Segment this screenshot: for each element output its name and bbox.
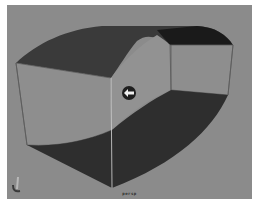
- curved-mesh-object[interactable]: [7, 5, 252, 199]
- move-manipulator[interactable]: [122, 86, 136, 100]
- axis-indicator-icon: [10, 173, 24, 193]
- left-arrow-icon: [124, 89, 134, 97]
- camera-label: persp: [7, 191, 252, 196]
- 3d-viewport[interactable]: persp: [7, 5, 252, 199]
- right-face: [170, 45, 233, 95]
